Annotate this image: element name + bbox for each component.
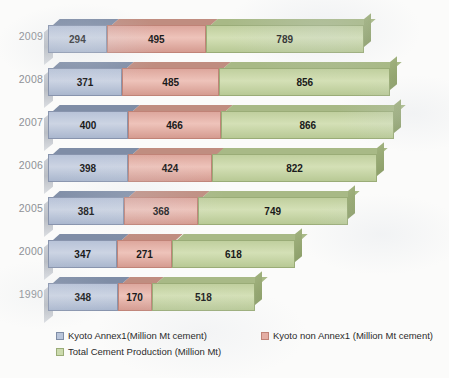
bar-segment: 618 xyxy=(172,240,296,268)
bar-segment: 495 xyxy=(107,25,206,53)
y-axis-tick-label: 1990 xyxy=(5,288,43,300)
bar-segment: 856 xyxy=(219,68,390,96)
bar-value-label: 856 xyxy=(296,77,313,88)
bar-segment: 348 xyxy=(48,283,118,311)
bar-segment: 485 xyxy=(122,68,219,96)
legend-swatch-green xyxy=(56,348,64,356)
bar-value-label: 749 xyxy=(264,206,281,217)
bar-segment: 371 xyxy=(48,68,122,96)
bar-segment: 368 xyxy=(124,197,198,225)
bar-segment: 822 xyxy=(212,154,376,182)
bar-value-label: 424 xyxy=(162,163,179,174)
bar-value-label: 789 xyxy=(276,34,293,45)
y-axis-tick-label: 2008 xyxy=(5,73,43,85)
legend-item[interactable]: Total Cement Production (Million Mt) xyxy=(56,346,221,357)
legend-item[interactable]: Kyoto non Annex1 (Million Mt cement) xyxy=(261,330,433,341)
bar-value-label: 170 xyxy=(126,292,143,303)
bar-segment: 466 xyxy=(128,111,221,139)
bar-segment: 789 xyxy=(206,25,364,53)
legend-swatch-blue xyxy=(56,332,64,340)
bar-segment: 294 xyxy=(48,25,107,53)
bar-value-label: 466 xyxy=(166,120,183,131)
bar-value-label: 347 xyxy=(74,249,91,260)
bar-segment: 347 xyxy=(48,240,117,268)
bar-value-label: 400 xyxy=(80,120,97,131)
legend-swatch-red xyxy=(261,332,269,340)
bar-value-label: 368 xyxy=(153,206,170,217)
bar-segment: 518 xyxy=(152,283,256,311)
bar-value-label: 495 xyxy=(148,34,165,45)
bar-value-label: 348 xyxy=(74,292,91,303)
bar-value-label: 381 xyxy=(78,206,95,217)
bar-segment: 398 xyxy=(48,154,128,182)
bar-value-label: 371 xyxy=(77,77,94,88)
bar-value-label: 294 xyxy=(69,34,86,45)
bar-value-label: 518 xyxy=(195,292,212,303)
legend-label: Kyoto Annex1(Million Mt cement) xyxy=(68,330,207,341)
chart-footnote xyxy=(10,370,310,378)
bar-value-label: 271 xyxy=(136,249,153,260)
y-axis-tick-label: 2007 xyxy=(5,116,43,128)
y-axis-tick-label: 2006 xyxy=(5,159,43,171)
bar-value-label: 822 xyxy=(286,163,303,174)
bar-segment: 424 xyxy=(128,154,213,182)
bar-segment: 400 xyxy=(48,111,128,139)
bar-segment: 381 xyxy=(48,197,124,225)
y-axis-tick-label: 2005 xyxy=(5,202,43,214)
bar-end-side-face xyxy=(348,185,355,219)
bar-segment: 271 xyxy=(117,240,171,268)
bar-value-label: 618 xyxy=(225,249,242,260)
legend-item[interactable]: Kyoto Annex1(Million Mt cement) xyxy=(56,330,207,341)
bar-value-label: 485 xyxy=(162,77,179,88)
bar-value-label: 866 xyxy=(299,120,316,131)
bar-segment: 170 xyxy=(118,283,152,311)
legend-label: Total Cement Production (Million Mt) xyxy=(68,346,221,357)
y-axis-tick-label: 2000 xyxy=(5,245,43,257)
bar-segment: 749 xyxy=(198,197,348,225)
bar-end-side-face xyxy=(377,142,384,176)
bar-value-label: 398 xyxy=(79,163,96,174)
legend-label: Kyoto non Annex1 (Million Mt cement) xyxy=(273,330,433,341)
bar-end-side-face xyxy=(364,13,371,47)
y-axis-tick-label: 2009 xyxy=(5,30,43,42)
bar-segment: 866 xyxy=(221,111,394,139)
chart-plot-area xyxy=(0,0,449,378)
